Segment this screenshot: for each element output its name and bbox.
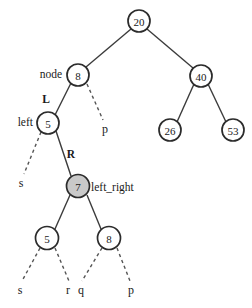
- subtree-edge-n8b-q-bottom: [82, 248, 102, 281]
- tree-node-n5a[interactable]: 5: [37, 112, 59, 134]
- node-label-n7: 7: [75, 181, 81, 193]
- leaf-labels-group: pssrqp: [18, 122, 134, 297]
- tree-node-n8[interactable]: 8: [67, 64, 89, 86]
- annot-left: left: [18, 116, 34, 128]
- tree-edge-n7-n5b: [55, 195, 70, 229]
- tree-nodes-group: 2084026535758: [36, 10, 245, 250]
- subtree-edge-n5b-s-bottom: [22, 248, 40, 281]
- label-L: L: [42, 93, 50, 105]
- tree-node-n8b[interactable]: 8: [98, 227, 121, 250]
- label-R: R: [67, 148, 76, 160]
- subtree-edge-n8-p-right: [87, 84, 103, 120]
- leaf-q-bottom: q: [78, 283, 84, 297]
- subtree-edge-n5a-s-left: [24, 132, 41, 174]
- binary-tree-diagram: 2084026535758 LR nodeleftleft_right pssr…: [0, 0, 252, 308]
- leaf-p-bottom: p: [128, 283, 134, 297]
- tree-canvas: 2084026535758 LR nodeleftleft_right pssr…: [0, 0, 252, 308]
- solid-edges-group: [55, 29, 226, 229]
- node-label-n5b: 5: [44, 233, 50, 245]
- node-label-n8: 8: [75, 70, 81, 82]
- tree-node-n5b[interactable]: 5: [36, 227, 59, 250]
- tree-edge-n8-n5a: [55, 83, 71, 115]
- node-label-n53: 53: [228, 125, 240, 137]
- subtree-edge-n5b-r-bottom: [55, 248, 69, 281]
- tree-edge-n20-n8: [86, 29, 131, 67]
- tree-node-n20[interactable]: 20: [128, 10, 150, 32]
- subtree-edge-n8b-p-bottom: [117, 248, 130, 281]
- leaf-s-bottom: s: [18, 283, 23, 297]
- tree-edge-n40-n53: [208, 84, 226, 122]
- annot-node: node: [40, 68, 62, 80]
- node-label-n8b: 8: [106, 233, 112, 245]
- node-label-n5a: 5: [45, 118, 51, 130]
- leaf-r-bottom: r: [66, 283, 70, 297]
- tree-node-n7[interactable]: 7: [67, 175, 90, 198]
- leaf-s-left: s: [19, 176, 24, 190]
- node-label-n40: 40: [196, 71, 208, 83]
- tree-node-n40[interactable]: 40: [190, 65, 212, 87]
- tree-edge-n20-n40: [147, 29, 193, 68]
- tree-node-n53[interactable]: 53: [222, 119, 244, 141]
- tree-edge-n7-n8b: [87, 195, 101, 229]
- node-label-n20: 20: [134, 16, 146, 28]
- tree-edge-n40-n26: [177, 84, 194, 122]
- node-label-n26: 26: [165, 125, 177, 137]
- tree-node-n26[interactable]: 26: [159, 119, 181, 141]
- annot-left-right: left_right: [91, 181, 135, 194]
- leaf-p-right: p: [102, 122, 108, 136]
